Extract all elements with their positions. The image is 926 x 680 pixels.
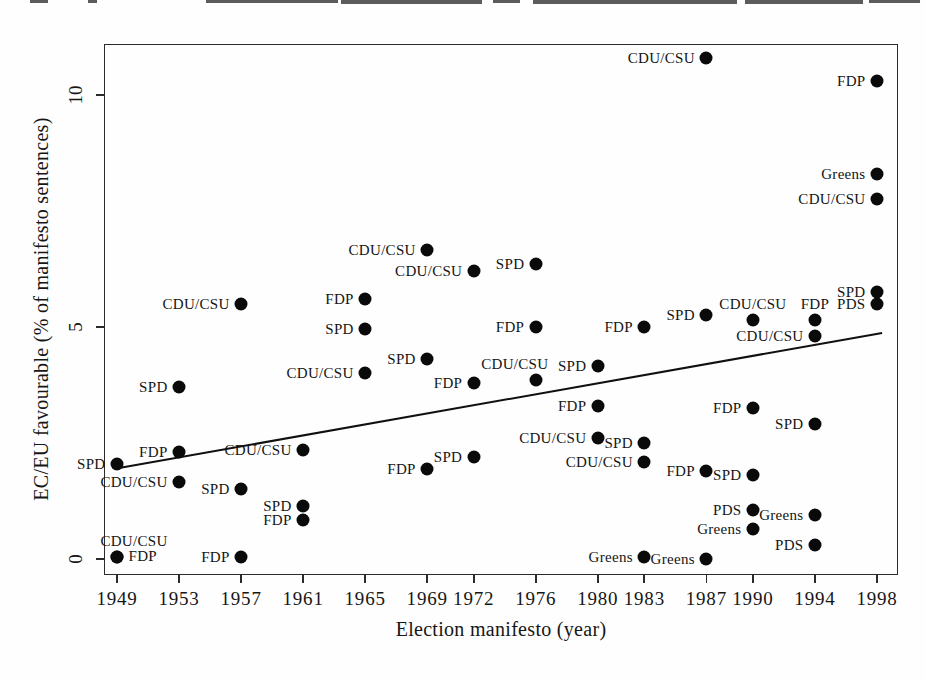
- x-axis-tick: [706, 575, 708, 583]
- x-axis-tick: [116, 575, 118, 583]
- data-point-label: CDU/CSU: [519, 431, 586, 446]
- data-point-dot: [529, 374, 542, 387]
- data-point-label: CDU/CSU: [736, 329, 803, 344]
- data-point-label: FDP: [558, 398, 586, 413]
- data-point-dot: [591, 360, 604, 373]
- data-point-label: FDP: [434, 375, 462, 390]
- x-axis-tick: [473, 575, 475, 583]
- scan-artifact: [493, 0, 520, 3]
- data-point-dot: [591, 432, 604, 445]
- data-point-dot: [808, 314, 821, 327]
- data-point-label: CDU/CSU: [349, 243, 416, 258]
- data-point-label: SPD: [434, 449, 462, 464]
- data-point-dot: [808, 508, 821, 521]
- x-axis-tick: [364, 575, 366, 583]
- data-point-dot: [297, 443, 310, 456]
- data-point-dot: [746, 522, 759, 535]
- data-point-dot: [111, 457, 124, 470]
- data-point-label: FDP: [496, 320, 524, 335]
- data-point-dot: [591, 399, 604, 412]
- y-axis-tick: [96, 558, 104, 560]
- data-point-label: FDP: [801, 297, 829, 312]
- x-axis-tick: [426, 575, 428, 583]
- data-point-dot: [870, 297, 883, 310]
- data-point-dot: [746, 402, 759, 415]
- x-axis-tick-label: 1949: [96, 588, 137, 610]
- data-point-dot: [808, 330, 821, 343]
- data-point-label: PDS: [837, 296, 865, 311]
- data-point-label: FDP: [129, 548, 157, 563]
- data-point-dot: [700, 464, 713, 477]
- x-axis-tick: [876, 575, 878, 583]
- data-point-label: PDS: [713, 503, 741, 518]
- data-point-dot: [421, 244, 434, 257]
- data-point-label: FDP: [325, 292, 353, 307]
- x-axis-tick-label: 1998: [856, 588, 897, 610]
- data-point-dot: [297, 499, 310, 512]
- scan-artifact: [745, 0, 863, 4]
- data-point-dot: [700, 553, 713, 566]
- y-axis-tick-label: 0: [65, 554, 87, 564]
- y-axis-tick: [96, 326, 104, 328]
- x-axis-tick: [535, 575, 537, 583]
- data-point-label: FDP: [263, 512, 291, 527]
- data-point-label: SPD: [558, 359, 586, 374]
- x-axis-tick-label: 1957: [220, 588, 261, 610]
- data-point-dot: [359, 367, 372, 380]
- scan-artifact: [869, 0, 920, 3]
- y-axis-tick-label: 10: [65, 86, 87, 105]
- x-axis-tick-label: 1976: [515, 588, 556, 610]
- data-point-label: CDU/CSU: [395, 264, 462, 279]
- data-point-dot: [638, 437, 651, 450]
- data-point-label: FDP: [713, 401, 741, 416]
- data-point-dot: [111, 550, 124, 563]
- data-point-dot: [297, 513, 310, 526]
- data-point-dot: [638, 550, 651, 563]
- data-point-dot: [359, 293, 372, 306]
- data-point-label: FDP: [139, 445, 167, 460]
- data-point-dot: [638, 321, 651, 334]
- data-point-label: SPD: [139, 380, 167, 395]
- data-point-dot: [235, 297, 248, 310]
- x-axis-tick: [752, 575, 754, 583]
- data-point-label: Greens: [651, 552, 695, 567]
- data-point-dot: [700, 51, 713, 64]
- data-point-label: SPD: [325, 322, 353, 337]
- x-axis-tick-label: 1987: [686, 588, 727, 610]
- data-point-label: FDP: [387, 461, 415, 476]
- data-point-dot: [467, 376, 480, 389]
- data-point-label: FDP: [201, 549, 229, 564]
- data-point-label: Greens: [821, 166, 865, 181]
- x-axis-tick-label: 1961: [283, 588, 324, 610]
- data-point-dot: [529, 321, 542, 334]
- data-point-dot: [700, 309, 713, 322]
- data-point-label: FDP: [604, 320, 632, 335]
- data-point-dot: [235, 483, 248, 496]
- data-point-dot: [173, 446, 186, 459]
- scatter-plot-figure: Election manifesto (year) EC/EU favourab…: [0, 0, 926, 680]
- scan-artifact: [88, 0, 97, 3]
- data-point-label: SPD: [77, 456, 105, 471]
- data-point-label: Greens: [697, 521, 741, 536]
- x-axis-tick: [178, 575, 180, 583]
- x-axis-tick-label: 1965: [345, 588, 386, 610]
- data-point-label: FDP: [837, 74, 865, 89]
- y-axis-tick: [96, 94, 104, 96]
- data-point-dot: [529, 258, 542, 271]
- data-point-label: CDU/CSU: [100, 475, 167, 490]
- x-axis-tick-label: 1969: [407, 588, 448, 610]
- data-point-label: CDU/CSU: [566, 454, 633, 469]
- x-axis-tick-label: 1983: [624, 588, 665, 610]
- x-axis-tick: [597, 575, 599, 583]
- data-point-label: SPD: [387, 352, 415, 367]
- data-point-dot: [421, 462, 434, 475]
- data-point-label: CDU/CSU: [162, 296, 229, 311]
- data-point-label: Greens: [589, 549, 633, 564]
- data-point-dot: [808, 539, 821, 552]
- data-point-dot: [746, 504, 759, 517]
- data-point-label: SPD: [775, 417, 803, 432]
- x-axis-tick: [643, 575, 645, 583]
- x-axis-tick-label: 1980: [577, 588, 618, 610]
- y-axis-tick-label: 5: [65, 322, 87, 332]
- data-point-dot: [173, 381, 186, 394]
